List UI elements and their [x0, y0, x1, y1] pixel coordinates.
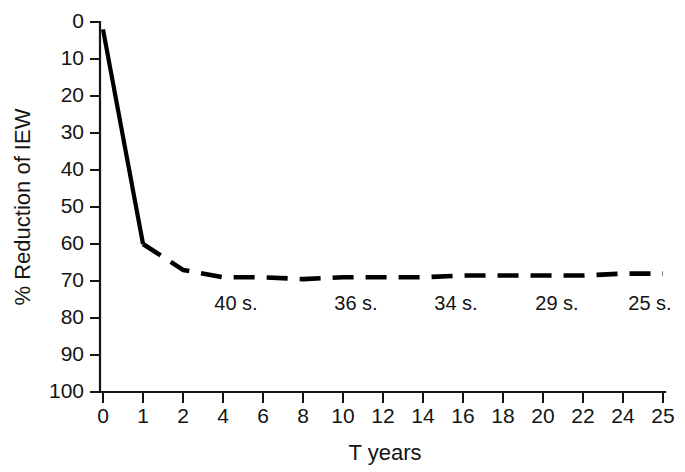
y-tick-label: 70: [61, 268, 84, 291]
x-tick-label: 1: [137, 404, 149, 427]
y-tick-label: 60: [61, 231, 84, 254]
x-tick-label: 16: [451, 404, 474, 427]
annotation-label: 40 s.: [214, 292, 257, 314]
y-tick-label: 20: [61, 83, 84, 106]
y-tick-label: 40: [61, 157, 84, 180]
chart-figure: 0 10 20 30 40 50 60 70 80 90 100: [0, 0, 685, 472]
x-tick-label: 12: [371, 404, 394, 427]
x-axis-title: T years: [349, 440, 422, 465]
y-tick-label: 0: [72, 9, 84, 32]
x-tick-label: 2: [177, 404, 189, 427]
x-tick-label: 18: [491, 404, 514, 427]
reduction-of-iew-line-chart: 0 10 20 30 40 50 60 70 80 90 100: [0, 0, 685, 472]
annotation-label: 25 s.: [628, 292, 671, 314]
x-tick-label: 25: [651, 404, 674, 427]
x-tick-label: 14: [411, 404, 435, 427]
annotation-label: 29 s.: [535, 292, 578, 314]
x-tick-label: 4: [217, 404, 229, 427]
y-tick-label: 90: [61, 342, 84, 365]
y-tick-label: 50: [61, 194, 84, 217]
x-tick-label: 6: [257, 404, 269, 427]
x-tick-label: 20: [531, 404, 554, 427]
y-axis-title: % Reduction of IEW: [10, 108, 35, 305]
x-tick-label: 10: [331, 404, 354, 427]
y-tick-label: 100: [49, 379, 84, 402]
annotation-label: 36 s.: [334, 292, 377, 314]
x-tick-label: 24: [611, 404, 635, 427]
y-tick-label: 10: [61, 46, 84, 69]
annotation-label: 34 s.: [434, 292, 477, 314]
x-tick-label: 22: [571, 404, 594, 427]
x-tick-label: 0: [97, 404, 109, 427]
y-tick-label: 30: [61, 120, 84, 143]
y-tick-label: 80: [61, 305, 84, 328]
x-tick-label: 8: [297, 404, 309, 427]
x-axis-tick-labels: 0 1 2 4 6 8 10 12 14 16 18 20 22 24 25: [97, 404, 675, 427]
